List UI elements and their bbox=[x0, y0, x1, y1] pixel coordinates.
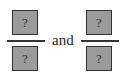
numerator-placeholder: ? bbox=[22, 15, 28, 31]
denominator-box-left[interactable]: ? bbox=[12, 46, 38, 71]
numerator-placeholder: ? bbox=[96, 15, 102, 31]
numerator-box-right[interactable]: ? bbox=[86, 10, 112, 35]
fraction-left: ? ? bbox=[7, 0, 47, 82]
connector-text: and bbox=[52, 32, 74, 49]
fraction-bar bbox=[7, 40, 45, 42]
fraction-bar bbox=[81, 40, 119, 42]
numerator-box-left[interactable]: ? bbox=[12, 10, 38, 35]
fraction-right: ? ? bbox=[81, 0, 121, 82]
denominator-placeholder: ? bbox=[96, 51, 102, 67]
denominator-placeholder: ? bbox=[22, 51, 28, 67]
denominator-box-right[interactable]: ? bbox=[86, 46, 112, 71]
